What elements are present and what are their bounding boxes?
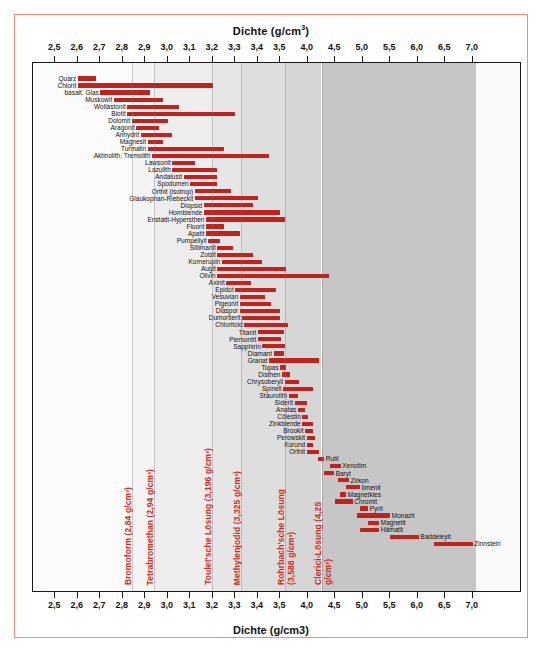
mineral-range-bar [242,316,280,320]
mineral-range-bar [269,358,319,362]
mineral-row: Hornblende [33,209,520,216]
top-axis-title-close: ) [305,25,309,37]
mineral-label: Muskowit [85,96,114,103]
axis-tick-label: 3,1 [183,600,196,610]
mineral-range-bar [206,217,285,221]
mineral-range-bar [127,105,179,109]
mineral-range-bar [226,281,251,285]
mineral-range-bar [240,302,272,306]
mineral-range-bar [244,323,288,327]
mineral-label: Zinnstein [473,540,501,547]
axis-tick [212,592,213,598]
mineral-row: Sapphirin [33,343,520,350]
mineral-label: Baryt [334,470,351,477]
mineral-row: Korund [33,442,520,449]
mineral-row: Lazulith [33,167,520,174]
mineral-label: Orthit (isotrop) [152,188,195,195]
mineral-label: Hornblende [169,209,204,216]
mineral-label: Orthit [289,448,306,455]
mineral-row: Diopsid [33,202,520,209]
mineral-label: Dolomit [108,117,132,124]
mineral-label: Disthen [258,371,282,378]
mineral-range-bar [258,330,284,334]
mineral-row: Wollastonit [33,103,520,110]
mineral-row: Fluorit [33,223,520,230]
axis-tick-label: 5,0 [355,42,368,52]
axis-tick-label: 7,0 [465,600,478,610]
plot-area: QuarzChloritbasalt. GlasMuskowitWollasto… [32,62,521,592]
mineral-range-bar [127,112,235,116]
axis-tick [234,592,235,598]
mineral-label: Kornerupin [188,258,221,265]
axis-tick-label: 4,0 [300,600,313,610]
mineral-range-bar [258,337,282,341]
axis-tick-label: 2,6 [70,600,83,610]
mineral-row: Diamant [33,350,520,357]
mineral-range-bar [274,351,284,355]
mineral-label: Topas [261,364,280,371]
mineral-range-bar [360,506,368,510]
axis-tick [99,592,100,598]
mineral-label: Spinell [262,385,283,392]
mineral-label: Fluorit [186,223,206,230]
axis-tick [362,592,363,598]
mineral-range-bar [335,499,353,503]
mineral-range-bar [285,380,299,384]
mineral-label: Wollastonit [94,103,127,110]
mineral-label: Cölestin [277,413,302,420]
mineral-range-bar [368,521,379,525]
axis-tick-label: 4,5 [328,42,341,52]
mineral-label: Lawsonit [145,159,172,166]
mineral-row: Olivin [33,272,520,279]
mineral-label: Rutil [324,455,339,462]
mineral-label: Lazulith [148,166,172,173]
mineral-row: Sillimanit [33,244,520,251]
mineral-label: Magnesit [120,138,148,145]
mineral-range-bar [302,422,313,426]
chart-figure: Dichte (g/cm3) 2,52,62,72,82,93,03,13,23… [0,0,542,652]
axis-bottom: 2,52,62,72,82,93,03,13,23,33,43,54,04,55… [32,592,521,612]
mineral-label: Granat [248,357,269,364]
mineral-label: Quarz [59,75,78,82]
mineral-range-bar [307,443,314,447]
axis-tick [472,592,473,598]
axis-top: 2,52,62,72,82,93,03,13,23,33,43,54,04,55… [32,42,521,62]
solution-label-3: Toulet'sche Lösung (3,196 g/cm³) [203,448,213,585]
solution-label-5: Rohrbach'sche Lösung (3,588 g/cm³) [276,475,296,585]
mineral-label: Augit [201,265,217,272]
axis-tick [77,592,78,598]
mineral-label: Pigeonit [215,300,240,307]
solution-label-1: Bromoform (2,84 g/cm³) [123,487,133,585]
mineral-label: Pyrit [368,505,383,512]
mineral-label: Zirkon [349,477,369,484]
axis-tick [189,592,190,598]
mineral-row: Chloritoid [33,322,520,329]
axis-tick [334,592,335,598]
mineral-row: Chlorit [33,82,520,89]
axis-tick [257,592,258,598]
axis-tick-label: 2,7 [93,42,106,52]
mineral-range-bar [172,168,217,172]
solution-label-4: Methylenjodid (3,325 g/cm³) [232,471,242,585]
mineral-range-bar [217,246,233,250]
mineral-label: Enstatit-Hypersthen [147,216,206,223]
mineral-range-bar [208,239,219,243]
mineral-row: Orthit (isotrop) [33,188,520,195]
axis-tick-label: 6,5 [438,600,451,610]
mineral-label: Aktinolith, Tremolith [94,152,152,159]
mineral-range-bar [298,408,305,412]
mineral-range-bar [100,90,150,94]
mineral-row: Kornerupin [33,258,520,265]
mineral-row: Aragonit [33,124,520,131]
solution-label-6: Clerici-Lösung (4,25 g/cm³) [313,475,333,585]
mineral-row: Glaukophan-Riebeckit [33,195,520,202]
mineral-row: Titanit [33,329,520,336]
axis-tick-label: 3,2 [205,42,218,52]
mineral-label: Magnetkies [346,491,381,498]
axis-tick-label: 2,8 [115,600,128,610]
mineral-row: Rutil [33,456,520,463]
mineral-range-bar [307,450,319,454]
mineral-range-bar [217,274,329,278]
axis-tick-label: 3,0 [160,600,173,610]
bottom-axis-title: Dichte (g/cm3) [0,624,542,636]
